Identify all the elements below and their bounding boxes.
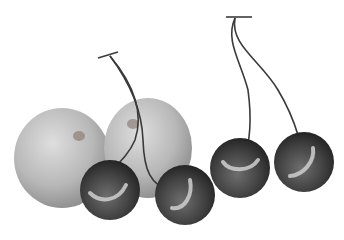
cherry-1: [80, 160, 140, 220]
cherry-4: [274, 132, 334, 192]
cherry-2: [155, 165, 215, 225]
fruit-drawing: [0, 0, 344, 240]
cherry-3: [210, 138, 270, 198]
illustration: Grayscale illustration of two apricots/a…: [0, 0, 344, 240]
